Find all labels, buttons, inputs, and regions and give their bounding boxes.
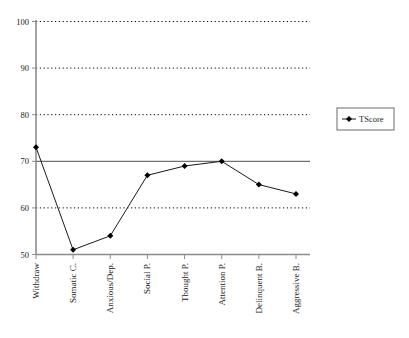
cat-label-aggressive-b: Aggressive B. [291,263,301,314]
gridlines [36,22,310,208]
y-tick-label-100: 100 [16,17,29,27]
line-chart: 100 90 80 70 60 50 [0,0,409,338]
y-tick-label-50: 50 [21,250,30,260]
y-tick-label-60: 60 [21,203,30,213]
y-tick-label-90: 90 [21,63,30,73]
series-line-tscore [36,147,296,250]
cat-label-thought-p: Thought P. [180,263,190,302]
data-point-attention-p [219,158,225,164]
chart-legend[interactable]: TScore [337,108,394,130]
cat-label-delinquent-b: Delinquent B. [254,263,264,314]
cat-label-attention-p: Attention P. [217,263,227,306]
data-point-aggressive-b [293,191,299,197]
data-point-social-p [144,172,150,178]
series-markers-tscore [33,144,299,253]
cat-label-somatic-c: Somatic C. [68,263,78,303]
data-point-withdraw [33,144,39,150]
x-axis-category-labels: Withdraw Somatic C. Anxious/Dep. Social … [31,263,301,314]
legend-label-tscore: TScore [359,114,384,124]
data-point-delinquent-b [256,182,262,188]
cat-label-withdraw: Withdraw [31,263,41,299]
y-axis-tick-labels: 100 90 80 70 60 50 [16,17,29,260]
data-point-thought-p [182,163,188,169]
y-tick-label-70: 70 [21,156,30,166]
chart-container: 100 90 80 70 60 50 [0,0,409,338]
y-tick-label-80: 80 [21,110,30,120]
cat-label-social-p: Social P. [142,263,152,294]
data-point-somatic-c [70,247,76,253]
data-point-anxious-dep [107,233,113,239]
cat-label-anxious-dep: Anxious/Dep. [105,263,115,313]
